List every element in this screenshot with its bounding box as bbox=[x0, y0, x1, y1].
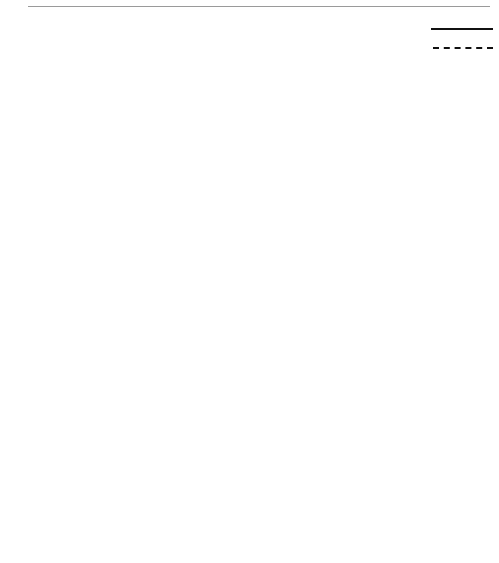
chart-svg-2 bbox=[8, 312, 244, 557]
legend-swatch-dashed bbox=[431, 43, 493, 53]
chart-panel-population-size bbox=[8, 312, 244, 557]
legend-item-average bbox=[288, 38, 493, 57]
chart-panel-sigma-scaling-factor bbox=[252, 312, 492, 557]
chart-svg-1 bbox=[252, 62, 492, 294]
figure-legend bbox=[288, 19, 493, 57]
chart-svg-0 bbox=[8, 62, 244, 294]
header-rule bbox=[28, 6, 490, 7]
chart-panel-mutation-probability bbox=[8, 62, 244, 294]
legend-item-minimum bbox=[288, 19, 493, 38]
chart-svg-3 bbox=[252, 312, 492, 557]
legend-swatch-solid bbox=[431, 24, 493, 34]
chart-panel-mutation-acceptance-probability bbox=[252, 62, 492, 294]
